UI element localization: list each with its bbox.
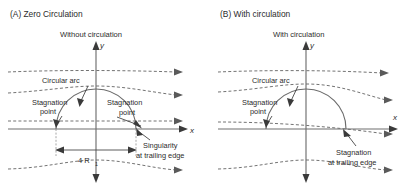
panel-b-canvas: (B) With circulation With circulation x — [210, 0, 419, 189]
streamline-upper-near-arrow — [174, 92, 183, 99]
stagnation-left-label-line2: point — [250, 107, 266, 116]
x-axis-label: x — [392, 113, 398, 122]
streamline-upper-near-arrow — [384, 97, 393, 104]
streamline-upper-near — [8, 86, 176, 95]
streamline-lower-far-arrow — [384, 167, 393, 174]
streamline-body-level-arrow — [384, 131, 393, 138]
streamline-body-level-arrow — [174, 118, 183, 125]
panel-a-canvas: (A) Zero Circulation Without circulation… — [0, 0, 209, 189]
dimension-label: 4 R — [78, 156, 90, 165]
streamline-upper-far-arrow — [380, 70, 389, 77]
y-axis-label: y — [99, 41, 105, 50]
circular-arc-leader-arrow — [77, 98, 84, 107]
panel-b-caption: (B) With circulation — [220, 9, 291, 19]
streamline-upper-far — [218, 71, 382, 73]
panel-zero-circulation: (A) Zero Circulation Without circulation… — [0, 0, 209, 189]
dimension-label-subscript: 1 — [95, 161, 98, 167]
y-axis-label: y — [309, 41, 315, 50]
stagnation-right-label-line2: point — [119, 108, 135, 117]
streamline-upper-far-arrow — [174, 69, 183, 76]
trailing-edge-arrow — [343, 129, 351, 137]
x-axis-label: x — [189, 126, 195, 135]
x-axis-arrow — [179, 126, 188, 133]
circular-arc-label: Circular arc — [42, 76, 80, 85]
figure-root: (A) Zero Circulation Without circulation… — [0, 0, 419, 189]
y-axis-arrow-down — [303, 174, 310, 183]
streamline-body-level — [218, 122, 386, 134]
streamline-lower-far — [8, 160, 176, 170]
panel-b-inner-title: With circulation — [273, 30, 324, 39]
trailing-edge-label-line2: at trailing edge — [136, 151, 184, 160]
y-axis-arrow-down — [93, 174, 100, 183]
stagnation-left-label-line1: Stagnation — [242, 98, 277, 107]
stagnation-left-label-line2: point — [40, 107, 56, 116]
panel-a-axes: x y — [8, 41, 195, 183]
trailing-edge-label-line1: Stagnation — [336, 148, 371, 157]
circular-arc-leader-arrow — [287, 98, 294, 107]
trailing-edge-label-line1: Singularity — [143, 141, 178, 150]
stagnation-right-label-line1: Stagnation — [107, 98, 142, 107]
panel-with-circulation: (B) With circulation With circulation x — [210, 0, 419, 189]
trailing-edge-label-line2: at trailing edge — [328, 158, 376, 167]
y-axis-arrow-up — [93, 41, 100, 50]
streamline-lower-far-arrow — [174, 167, 183, 174]
panel-a-caption: (A) Zero Circulation — [10, 9, 83, 19]
circular-arc-label: Circular arc — [252, 76, 290, 85]
panel-a-inner-title: Without circulation — [60, 30, 122, 39]
y-axis-arrow-up — [303, 41, 310, 50]
streamline-upper-far — [8, 71, 176, 73]
x-axis-arrow — [389, 126, 398, 133]
stagnation-left-label-line1: Stagnation — [32, 98, 67, 107]
